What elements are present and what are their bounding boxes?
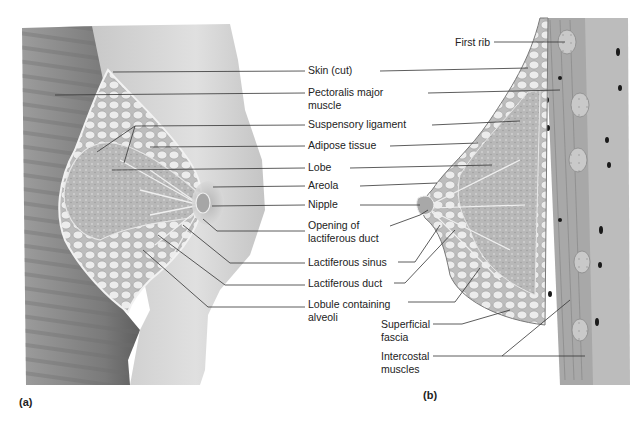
label-lobule-containing-alveoli: Lobule containing alveoli <box>308 298 390 323</box>
label-superficial-line2: fascia <box>381 331 430 344</box>
label-pectoralis-line1: Pectoralis major <box>308 86 383 99</box>
label-skin-cut: Skin (cut) <box>308 64 352 77</box>
label-opening-line1: Opening of <box>308 219 379 232</box>
panel-b-illustration <box>417 18 630 385</box>
label-opening-line2: lactiferous duct <box>308 232 379 245</box>
panel-tag-a: (a) <box>19 396 32 408</box>
label-superficial-line1: Superficial <box>381 318 430 331</box>
label-adipose-tissue: Adipose tissue <box>308 139 376 152</box>
label-superficial-fascia: Superficial fascia <box>381 318 430 343</box>
label-lactiferous-duct: Lactiferous duct <box>308 277 382 290</box>
panel-tag-b: (b) <box>423 389 437 401</box>
breast-anatomy-figure: Skin (cut) Pectoralis major muscle Suspe… <box>0 0 644 424</box>
label-intercostal-muscles: Intercostal muscles <box>381 350 429 375</box>
label-first-rib: First rib <box>455 36 490 49</box>
label-lobule-line1: Lobule containing <box>308 298 390 311</box>
panel-a-illustration <box>22 24 265 385</box>
label-opening-of-lactiferous-duct: Opening of lactiferous duct <box>308 219 379 244</box>
label-pectoralis-line2: muscle <box>308 99 383 112</box>
label-areola: Areola <box>308 179 338 192</box>
label-pectoralis-major-muscle: Pectoralis major muscle <box>308 86 383 111</box>
label-intercostal-line2: muscles <box>381 363 429 376</box>
label-intercostal-line1: Intercostal <box>381 350 429 363</box>
label-suspensory-ligament: Suspensory ligament <box>308 118 406 131</box>
label-lobule-line2: alveoli <box>308 311 390 324</box>
label-nipple: Nipple <box>308 198 338 211</box>
label-lactiferous-sinus: Lactiferous sinus <box>308 256 387 269</box>
label-lobe: Lobe <box>308 161 331 174</box>
